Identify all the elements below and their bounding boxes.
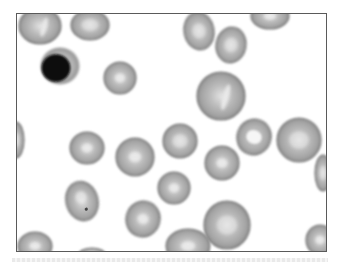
red-blood-cell xyxy=(306,225,334,255)
red-blood-cell xyxy=(104,62,136,94)
central-pallor xyxy=(30,242,41,249)
nucleus xyxy=(42,54,71,81)
central-pallor xyxy=(115,74,125,82)
red-blood-cell xyxy=(116,138,154,176)
central-pallor xyxy=(217,215,238,234)
red-blood-cell xyxy=(277,118,321,162)
red-blood-cell xyxy=(158,172,190,204)
red-blood-cell xyxy=(315,155,331,191)
central-pallor xyxy=(81,19,98,31)
central-pallor xyxy=(82,144,93,152)
central-pallor xyxy=(319,166,326,180)
central-pallor xyxy=(172,134,187,148)
central-pallor xyxy=(129,152,141,162)
central-pallor xyxy=(217,159,228,168)
red-blood-cell xyxy=(251,3,289,29)
red-blood-cell xyxy=(70,132,104,164)
red-blood-cell xyxy=(18,232,52,260)
red-blood-cell xyxy=(163,124,197,158)
central-pallor xyxy=(316,236,325,244)
central-pallor xyxy=(289,131,309,149)
central-pallor xyxy=(86,252,98,257)
caption-strip xyxy=(12,258,328,262)
lymphocyte-cell xyxy=(40,47,80,85)
central-pallor xyxy=(169,184,179,192)
blood-smear-micrograph xyxy=(0,0,342,265)
red-blood-cell xyxy=(71,10,109,40)
red-blood-cell xyxy=(204,201,250,249)
central-pallor xyxy=(181,242,195,251)
red-blood-cell xyxy=(205,146,239,180)
red-blood-cell xyxy=(197,72,245,120)
